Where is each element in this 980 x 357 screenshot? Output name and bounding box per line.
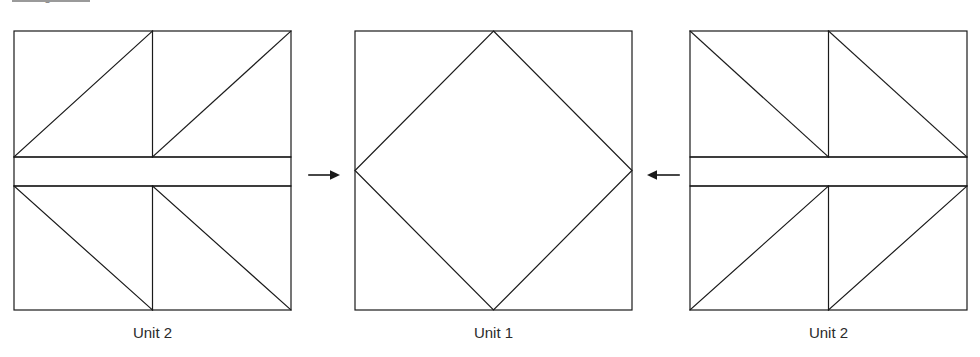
unit2-right-diagonal-bottom-left — [690, 186, 829, 310]
unit2-right-diagonal-top-right — [829, 31, 968, 157]
unit2-left-sashing-band — [14, 157, 291, 186]
unit2-left-diagonal-bottom-left — [14, 186, 153, 310]
unit1-inscribed-diamond — [355, 31, 632, 310]
caption-unit2-left: Unit 2 — [14, 322, 291, 344]
arrow-right-icon — [309, 170, 340, 180]
unit2-right-diagonal-top-left — [690, 31, 829, 157]
unit2-right-sashing-band — [690, 157, 967, 186]
unit2-left-diagonal-top-right — [153, 31, 292, 157]
arrow-left-icon — [647, 170, 679, 180]
unit2-left-block — [14, 31, 291, 310]
unit1-center-block — [355, 31, 632, 310]
unit2-left-diagonal-bottom-right — [153, 186, 292, 310]
assembly-diagram — [0, 0, 980, 357]
unit2-left-diagonal-top-left — [14, 31, 153, 157]
caption-unit2-right: Unit 2 — [690, 322, 967, 344]
caption-unit1-center: Unit 1 — [355, 322, 632, 344]
unit2-right-diagonal-bottom-right — [829, 186, 968, 310]
unit1-outer-square — [355, 31, 632, 310]
unit2-right-block — [690, 31, 967, 310]
